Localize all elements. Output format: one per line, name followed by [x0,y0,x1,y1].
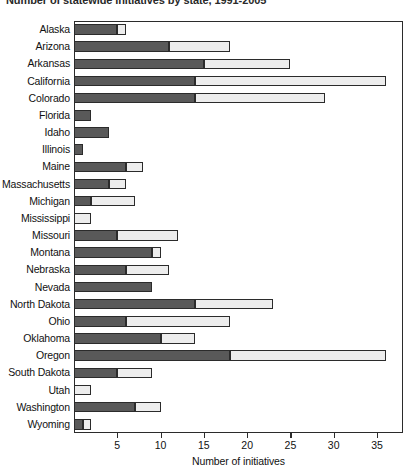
bar-segment-light [109,179,126,190]
x-axis-tick [117,433,118,438]
bar-segment-light [135,402,161,413]
x-axis-tick [247,433,248,438]
bar-row: Arkansas [0,55,413,72]
bar-row: Michigan [0,193,413,210]
y-axis-label: Washington [0,399,70,416]
bar-row: South Dakota [0,364,413,381]
bar-segment-dark [74,110,91,121]
x-axis-tick-label: 10 [148,439,174,451]
bar-segment-dark [74,76,195,87]
y-axis-label: Nevada [0,279,70,296]
bar-row: California [0,73,413,90]
y-axis-label: Illinois [0,141,70,158]
bar-row: North Dakota [0,296,413,313]
bar-segment-light [126,162,143,173]
bar-row: Massachusetts [0,176,413,193]
bar-row: Montana [0,244,413,261]
bar-row: Alaska [0,21,413,38]
bar-row: Mississippi [0,210,413,227]
y-axis-label: Ohio [0,313,70,330]
y-axis-label: Montana [0,244,70,261]
bar-segment-light [74,213,91,224]
bar-segment-dark [74,144,83,155]
bar-segment-light [117,24,126,35]
bar-segment-light [74,385,91,396]
x-axis-tick [161,433,162,438]
y-axis-label: Massachusetts [0,176,70,193]
y-axis-label: Oregon [0,347,70,364]
bar-segment-light [169,41,230,52]
y-axis-label: Alaska [0,21,70,38]
y-axis-label: Idaho [0,124,70,141]
bar-row: Illinois [0,141,413,158]
bar-segment-light [117,230,178,241]
y-axis-label: Oklahoma [0,330,70,347]
x-axis-tick-label: 35 [364,439,390,451]
x-axis-tick [290,433,291,438]
bar-row: Idaho [0,124,413,141]
bar-row: Nevada [0,279,413,296]
x-axis-tick-label: 5 [104,439,130,451]
bar-segment-dark [74,196,91,207]
bar-row: Missouri [0,227,413,244]
y-axis-label: Arkansas [0,55,70,72]
y-axis-label: Utah [0,382,70,399]
bar-segment-light [91,196,134,207]
y-axis-label: Florida [0,107,70,124]
bar-segment-dark [74,282,152,293]
bar-row: Utah [0,382,413,399]
y-axis-label: Colorado [0,90,70,107]
y-axis-label: Maine [0,158,70,175]
x-axis-tick [204,433,205,438]
bar-segment-dark [74,93,195,104]
x-axis-tick-label: 30 [321,439,347,451]
bar-segment-light [161,333,196,344]
chart-title: Number of statewide initiatives by state… [6,0,406,6]
bar-segment-dark [74,316,126,327]
x-axis-tick-label: 25 [277,439,303,451]
y-axis-label: Missouri [0,227,70,244]
initiatives-by-state-chart: Number of statewide initiatives by state… [0,0,413,473]
bar-segment-dark [74,419,83,430]
y-axis-label: North Dakota [0,296,70,313]
y-axis-label: Wyoming [0,416,70,433]
bar-segment-light [195,93,325,104]
bar-segment-dark [74,402,135,413]
bar-segment-dark [74,247,152,258]
bar-segment-light [117,368,152,379]
y-axis-label: California [0,73,70,90]
y-axis-label: Michigan [0,193,70,210]
x-axis: 5101520253035 Number of initiatives [74,433,403,473]
bar-segment-dark [74,127,109,138]
bar-segment-light [83,419,92,430]
bar-segment-dark [74,41,169,52]
bar-segment-light [126,265,169,276]
y-axis-label: South Dakota [0,364,70,381]
x-axis-title: Number of initiatives [74,455,403,467]
bar-row: Oregon [0,347,413,364]
bar-segment-dark [74,162,126,173]
bar-segment-dark [74,230,117,241]
y-axis-label: Mississippi [0,210,70,227]
bar-segment-light [204,59,291,70]
bar-segment-light [195,299,273,310]
bar-segment-dark [74,59,204,70]
bar-segment-light [230,350,386,361]
bar-segment-dark [74,24,117,35]
bar-segment-light [152,247,161,258]
bar-row: Ohio [0,313,413,330]
y-axis-label: Nebraska [0,261,70,278]
bar-segment-dark [74,299,195,310]
bar-row: Florida [0,107,413,124]
bar-segment-dark [74,350,230,361]
bar-segment-dark [74,179,109,190]
y-axis-label: Arizona [0,38,70,55]
bar-row: Nebraska [0,261,413,278]
bar-row: Colorado [0,90,413,107]
bar-segment-dark [74,265,126,276]
bar-segment-light [195,76,385,87]
bar-row: Arizona [0,38,413,55]
bar-row: Maine [0,158,413,175]
bar-segment-dark [74,333,161,344]
bar-row: Oklahoma [0,330,413,347]
